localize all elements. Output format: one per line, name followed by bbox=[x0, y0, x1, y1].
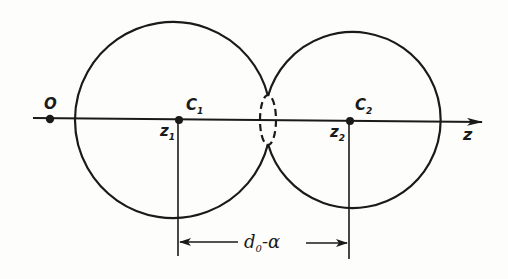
two-spheres-diagram: O C1 C2 z1 z2 z d0-α bbox=[0, 0, 508, 279]
label-c1: C1 bbox=[186, 96, 203, 116]
label-z2: z2 bbox=[329, 123, 345, 143]
diagram-svg: O C1 C2 z1 z2 z d0-α bbox=[0, 0, 508, 279]
label-distance: d0-α bbox=[244, 231, 280, 254]
center-2-point bbox=[346, 117, 354, 125]
label-z1: z1 bbox=[159, 122, 175, 142]
z-axis bbox=[33, 118, 482, 122]
label-c2: C2 bbox=[355, 96, 372, 116]
label-origin: O bbox=[44, 95, 57, 113]
origin-point bbox=[46, 115, 54, 123]
label-z-axis: z bbox=[462, 125, 473, 144]
center-1-point bbox=[175, 116, 183, 124]
